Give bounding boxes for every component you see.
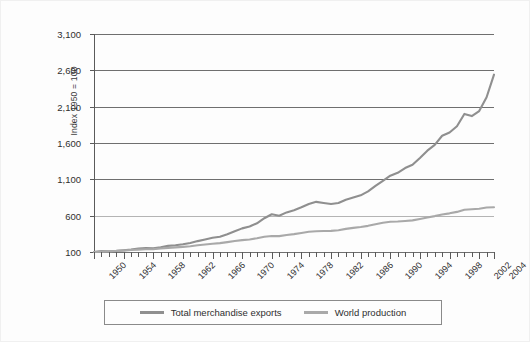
chart-figure: Index 1950 = 100 1006001,1001,6002,1002,… — [0, 0, 530, 342]
x-tick — [427, 252, 428, 257]
x-tick — [487, 252, 488, 257]
x-tick — [272, 252, 273, 259]
x-tick — [331, 252, 332, 259]
y-tick-label: 3,100 — [57, 29, 81, 40]
y-tick-label: 600 — [65, 210, 81, 221]
x-tick — [190, 252, 191, 257]
y-tick-label: 1,600 — [57, 138, 81, 149]
x-tick — [435, 252, 436, 257]
plot-area: 1006001,1001,6002,1002,6003,100 19501954… — [94, 34, 494, 252]
x-tick — [131, 252, 132, 257]
x-tick-labels: 1950195419581962196619701974197819821986… — [94, 260, 494, 300]
x-tick — [175, 252, 176, 257]
x-tick — [124, 252, 125, 259]
x-tick — [235, 252, 236, 257]
x-tick — [279, 252, 280, 257]
x-tick — [101, 252, 102, 257]
x-tick — [368, 252, 369, 257]
y-tick-label: 2,100 — [57, 101, 81, 112]
legend-swatch — [140, 311, 164, 313]
x-tick — [264, 252, 265, 257]
x-tick — [161, 252, 162, 257]
y-tick-label: 100 — [65, 247, 81, 258]
legend-item[interactable]: Total merchandise exports — [140, 307, 282, 318]
x-tick-label: 1954 — [136, 260, 157, 281]
x-tick — [198, 252, 199, 257]
x-tick — [361, 252, 362, 259]
x-tick — [213, 252, 214, 259]
x-tick-label: 1982 — [344, 260, 365, 281]
x-tick — [413, 252, 414, 257]
x-tick — [420, 252, 421, 259]
legend-label: World production — [335, 307, 407, 318]
x-tick — [316, 252, 317, 257]
x-tick — [464, 252, 465, 257]
x-tick — [227, 252, 228, 257]
x-tick — [205, 252, 206, 257]
x-tick — [479, 252, 480, 259]
x-tick — [138, 252, 139, 257]
x-tick — [109, 252, 110, 257]
x-tick-label: 1970 — [255, 260, 276, 281]
x-tick — [338, 252, 339, 257]
x-tick — [383, 252, 384, 257]
x-tick — [242, 252, 243, 259]
x-tick-label: 1958 — [166, 260, 187, 281]
x-tick-label: 1986 — [374, 260, 395, 281]
legend-label: Total merchandise exports — [171, 307, 282, 318]
x-tick-label: 1966 — [225, 260, 246, 281]
x-tick — [153, 252, 154, 259]
series-line — [94, 75, 494, 252]
x-tick — [301, 252, 302, 259]
x-tick — [257, 252, 258, 257]
x-tick-label: 1950 — [107, 260, 128, 281]
x-tick — [294, 252, 295, 257]
x-tick-label: 1990 — [403, 260, 424, 281]
x-tick — [346, 252, 347, 257]
x-tick — [375, 252, 376, 257]
x-tick-label: 1998 — [462, 260, 483, 281]
x-tick — [398, 252, 399, 257]
x-tick-marks — [94, 252, 494, 260]
x-tick — [250, 252, 251, 257]
x-tick-label: 1994 — [433, 260, 454, 281]
x-tick — [450, 252, 451, 259]
x-tick — [353, 252, 354, 257]
x-tick — [494, 252, 495, 259]
x-tick — [457, 252, 458, 257]
series-line — [94, 207, 494, 252]
x-tick — [183, 252, 184, 259]
x-tick — [472, 252, 473, 257]
x-tick — [324, 252, 325, 257]
legend-item[interactable]: World production — [304, 307, 407, 318]
x-tick-label: 1962 — [196, 260, 217, 281]
x-tick — [146, 252, 147, 257]
x-tick — [116, 252, 117, 257]
x-tick — [168, 252, 169, 257]
legend-swatch — [304, 311, 328, 313]
x-tick — [309, 252, 310, 257]
x-tick — [390, 252, 391, 259]
series-container — [94, 34, 494, 252]
y-tick-label: 2,600 — [57, 65, 81, 76]
x-tick-label: 1978 — [314, 260, 335, 281]
x-tick — [220, 252, 221, 257]
x-tick — [94, 252, 95, 259]
x-tick — [442, 252, 443, 257]
x-tick-label: 1974 — [285, 260, 306, 281]
x-tick — [405, 252, 406, 257]
y-tick-label: 1,100 — [57, 174, 81, 185]
x-tick — [287, 252, 288, 257]
chart-legend: Total merchandise exportsWorld productio… — [104, 300, 442, 325]
